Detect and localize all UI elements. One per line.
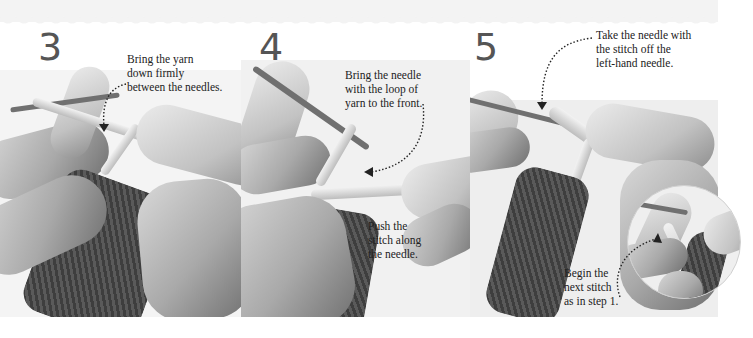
dotted-arrow-icon: [96, 78, 136, 138]
step-4-caption-bottom: Push the stitch along the needle.: [368, 219, 421, 261]
dotted-arrow-icon: [518, 30, 598, 115]
step-5-caption-top: Take the needle with the stitch off the …: [596, 28, 691, 70]
step-3-caption: Bring the yarn down firmly between the n…: [127, 52, 222, 94]
dotted-arrow-icon: [610, 225, 690, 305]
step-number: 5: [474, 28, 498, 66]
step-number: 4: [259, 28, 283, 66]
dotted-arrow-icon: [361, 100, 431, 180]
step-number: 3: [38, 28, 62, 66]
step-4-panel: 4 Bring the needle with the loop of yarn…: [241, 0, 470, 317]
step-3-panel: 3 Bring the yarn down firmly between the…: [0, 0, 241, 317]
